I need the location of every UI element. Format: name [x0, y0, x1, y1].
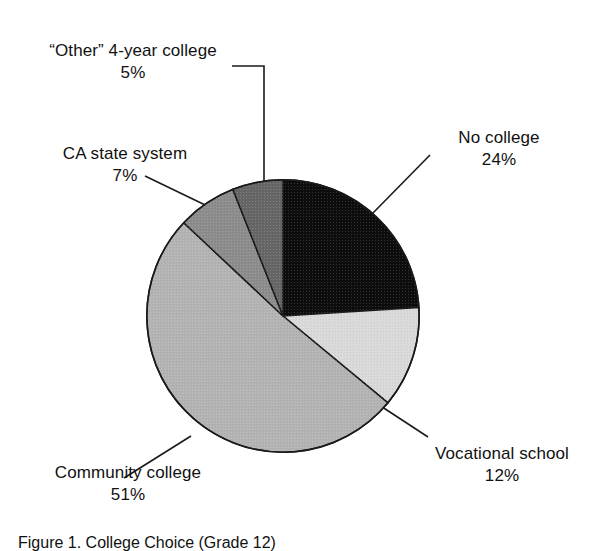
pie-slice-texture [283, 180, 419, 316]
leader-line-no-college [372, 155, 430, 214]
figure-caption: Figure 1. College Choice (Grade 12) [18, 534, 578, 551]
pie-chart-canvas [0, 0, 590, 551]
pie-texture-overlay [147, 180, 419, 452]
pie-chart-figure: “Other” 4-year college 5% CA state syste… [0, 0, 590, 551]
leader-line-other-4year [232, 66, 264, 186]
leader-line-community [124, 436, 191, 478]
